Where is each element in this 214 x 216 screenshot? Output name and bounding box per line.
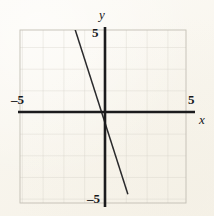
- x-axis-name-label: x: [199, 113, 205, 126]
- y-axis-min-tick-label: –5: [87, 192, 100, 205]
- y-axis-max-tick-label: 5: [92, 26, 99, 39]
- y-axis-name-label: y: [99, 8, 105, 21]
- coordinate-plane: [0, 0, 214, 216]
- x-axis-max-tick-label: 5: [188, 93, 195, 106]
- x-axis-min-tick-label: –5: [11, 93, 24, 106]
- graph-figure: y x 5 –5 –5 5: [0, 0, 214, 216]
